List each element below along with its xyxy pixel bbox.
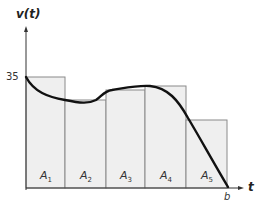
area-label-a2: A2 <box>80 170 92 184</box>
x-axis-label: t <box>248 181 254 193</box>
area-label-a3: A3 <box>120 170 132 184</box>
area-label-a4: A4 <box>160 170 172 184</box>
y-axis-arrow-icon <box>24 26 28 32</box>
x-axis-arrow-icon <box>238 186 244 190</box>
area-label-a5: A5 <box>201 170 213 184</box>
x-end-label: b <box>224 192 230 202</box>
riemann-sum-diagram: v(t) 35 t b A1 A2 A3 A4 A5 <box>0 0 267 208</box>
y-axis-label: v(t) <box>16 8 41 20</box>
y-value-label: 35 <box>6 72 19 82</box>
area-label-a1: A1 <box>40 170 52 184</box>
